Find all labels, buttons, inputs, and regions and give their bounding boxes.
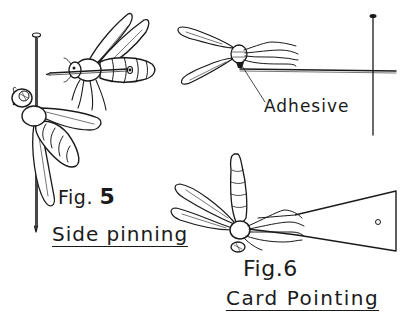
fig5-number: 5 [99, 184, 115, 209]
fig6-card-point [248, 191, 396, 251]
fig5-caption: Side pinning [52, 224, 188, 247]
fig6-number: 6 [283, 256, 298, 281]
fig6-mosquito [171, 154, 304, 252]
illustration-canvas [0, 0, 402, 328]
fig6-label: Fig.6 [243, 258, 298, 280]
fig6-caption: Card Pointing [226, 288, 379, 311]
fig6-prefix: Fig. [243, 256, 283, 281]
adhesive-mount [178, 14, 396, 135]
adhesive-annotation: Adhesive [264, 98, 349, 115]
fig5-prefix: Fig. [58, 186, 93, 208]
fig5-label: Fig. 5 [58, 186, 115, 208]
fig5-wasp-top [46, 13, 155, 110]
